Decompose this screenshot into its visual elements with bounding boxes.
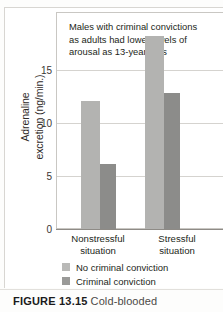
scanned-page: Adrenaline excretion (ng/min.) 0 5 10 15… <box>0 0 223 312</box>
x-axis-line <box>56 229 223 230</box>
x-category-nonstressful-line-1: Nonstressful <box>60 233 136 245</box>
caption-divider <box>0 289 223 290</box>
y-tick-10: 10 <box>30 118 52 129</box>
bar-stressful-conviction <box>164 93 180 230</box>
x-category-nonstressful: Nonstressful situation <box>60 233 136 257</box>
y-tick-0: 0 <box>30 224 52 235</box>
figure-caption-label: FIGURE 13.15 <box>13 295 88 307</box>
bar-nonstressful-conviction <box>100 164 116 229</box>
legend-label-no-criminal-conviction: No criminal conviction <box>76 262 168 273</box>
legend-swatch-icon-no-criminal-conviction <box>62 263 70 271</box>
legend-item-criminal-conviction: Criminal conviction <box>62 274 168 288</box>
figure-caption: FIGURE 13.15 Cold-blooded <box>13 294 157 308</box>
x-category-stressful: Stressful situation <box>146 233 208 257</box>
x-category-nonstressful-line-2: situation <box>60 245 136 257</box>
chart-legend: No criminal conviction Criminal convicti… <box>62 260 168 288</box>
y-tick-15: 15 <box>30 65 52 76</box>
bar-nonstressful-no-conviction <box>81 101 100 229</box>
legend-item-no-criminal-conviction: No criminal conviction <box>62 260 168 274</box>
figure-caption-text: Cold-blooded <box>91 295 158 307</box>
legend-swatch-icon-criminal-conviction <box>62 277 70 285</box>
bars-layer <box>56 12 223 229</box>
legend-label-criminal-conviction: Criminal conviction <box>76 276 156 287</box>
x-category-stressful-line-1: Stressful <box>146 233 208 245</box>
bar-stressful-no-conviction <box>145 36 164 229</box>
y-tick-5: 5 <box>30 171 52 182</box>
x-category-stressful-line-2: situation <box>146 245 208 257</box>
y-axis-ticks: 0 5 10 15 <box>26 0 52 312</box>
